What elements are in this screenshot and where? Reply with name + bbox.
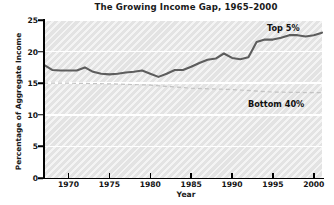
x-tick-mark-1995 <box>272 173 274 178</box>
y-tick-label-0: 0 <box>24 174 38 183</box>
x-tick-label-1980: 1980 <box>130 180 170 189</box>
x-tick-label-1970: 1970 <box>49 180 89 189</box>
x-tick-mark-1970 <box>68 173 70 178</box>
y-tick-label-15: 15 <box>24 79 38 88</box>
y-tick-label-20: 20 <box>24 47 38 56</box>
chart-figure: The Growing Income Gap, 1965–2000 Percen… <box>0 0 334 205</box>
y-tick-label-10: 10 <box>24 110 38 119</box>
y-tick-mark-25 <box>38 19 43 21</box>
series-line-top-5 <box>44 33 322 77</box>
x-tick-label-1995: 1995 <box>253 180 293 189</box>
y-tick-mark-10 <box>38 114 43 116</box>
y-axis-line <box>43 19 45 179</box>
x-tick-label-1975: 1975 <box>89 180 129 189</box>
x-tick-label-1985: 1985 <box>171 180 211 189</box>
series-annotation-top-5: Top 5% <box>267 23 300 33</box>
x-tick-mark-1990 <box>231 173 233 178</box>
x-tick-label-1990: 1990 <box>212 180 252 189</box>
x-tick-label-2000: 2000 <box>294 180 334 189</box>
chart-title: The Growing Income Gap, 1965–2000 <box>44 2 328 12</box>
y-tick-mark-5 <box>38 146 43 148</box>
series-annotation-bottom-40: Bottom 40% <box>248 99 304 109</box>
y-tick-mark-15 <box>38 82 43 84</box>
x-tick-mark-1975 <box>109 173 111 178</box>
x-tick-mark-2000 <box>313 173 315 178</box>
x-tick-mark-1985 <box>190 173 192 178</box>
y-tick-mark-20 <box>38 51 43 53</box>
y-tick-label-25: 25 <box>24 16 38 25</box>
series-line-bottom-40 <box>44 83 322 92</box>
y-axis-title: Percentage of Aggregate Income <box>14 22 23 182</box>
y-tick-mark-0 <box>38 177 43 179</box>
y-tick-label-5: 5 <box>24 142 38 151</box>
x-axis-title: Year <box>44 190 328 199</box>
x-tick-mark-1980 <box>150 173 152 178</box>
